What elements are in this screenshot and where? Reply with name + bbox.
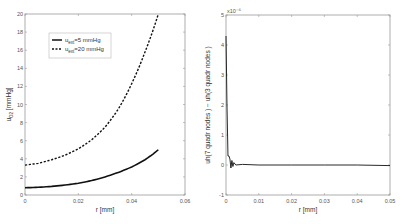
left-chart: 00.020.040.0602468101214161820r [mm]uO2 … [5,11,190,214]
x-tick-label: 0.01 [253,198,264,204]
right-chart: 00.010.020.030.040.05-1012345r [mm]uh(7 … [204,8,395,214]
y-tick-label: 4 [20,156,23,162]
y-tick-label: 1 [221,132,224,138]
y-tick-label: 6 [20,138,23,144]
y-tick-label: 0 [221,162,224,168]
y-axis-label: uh(7 quadr nodes ) − uh(3 quadr nodes ) [204,46,212,163]
y-tick-label: 4 [221,42,224,48]
x-tick-label: 0.04 [126,198,137,204]
x-tick-label: 0.03 [319,198,330,204]
x-tick-label: 0.05 [385,198,396,204]
x-tick-label: 0 [23,198,26,204]
plot-area [226,15,390,195]
figure: 00.020.040.0602468101214161820r [mm]uO2 … [0,0,404,224]
x-tick-label: 0.06 [180,198,191,204]
x-tick-label: 0.02 [73,198,84,204]
y-tick-label: 14 [17,65,23,71]
y-tick-label: 8 [20,120,23,126]
y-tick-label: 12 [17,83,23,89]
y-tick-label: 2 [20,174,23,180]
y-axis-label: uO2 [mmHg] [5,87,14,121]
y-tick-label: 18 [17,29,23,35]
y-tick-label: 16 [17,47,23,53]
x-tick-label: 0.04 [352,198,363,204]
y-tick-label: 20 [17,11,23,17]
y-tick-label: 5 [221,12,224,18]
x-axis-label: r [mm] [96,206,115,214]
y-tick-label: 10 [17,102,23,108]
y-multiplier: x10⁻⁶ [227,8,241,14]
x-tick-label: 0 [224,198,227,204]
x-axis-label: r [mm] [299,206,318,214]
legend: uext=5 mmHguext=20 mmHg [49,33,111,58]
y-tick-label: 3 [221,72,224,78]
y-tick-label: 0 [20,192,23,198]
x-tick-label: 0.02 [286,198,297,204]
y-tick-label: 2 [221,102,224,108]
y-tick-label: -1 [219,192,224,198]
